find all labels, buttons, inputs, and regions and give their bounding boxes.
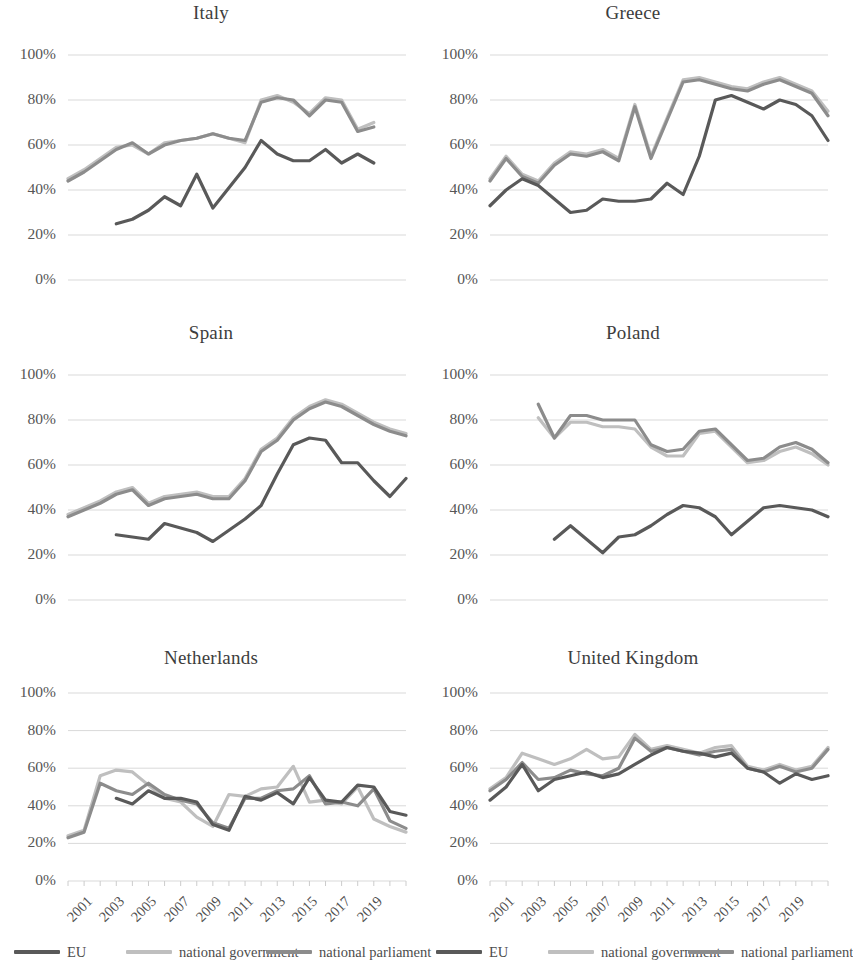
chart-panel-spain: Spain0%20%40%60%80%100%: [0, 320, 422, 642]
series-line-eu: [554, 506, 828, 553]
legend-label: EU: [489, 944, 508, 961]
legend-swatch-icon: [688, 950, 734, 954]
series-line-national-government: [68, 400, 406, 515]
legend-item-eu[interactable]: EU: [14, 941, 86, 963]
legend-label: national parliament: [741, 944, 853, 961]
chart-panel-poland: Poland0%20%40%60%80%100%: [422, 320, 844, 642]
chart-panel-greece: Greece0%20%40%60%80%100%: [422, 0, 844, 322]
legend-swatch-icon: [548, 950, 594, 954]
plot-area: [422, 0, 844, 322]
chart-legend: EUnational governmentnational parliament: [0, 941, 422, 963]
series-line-eu: [490, 748, 828, 801]
plot-area: [0, 320, 422, 642]
series-line-national-government: [538, 418, 828, 465]
series-line-national-government: [68, 766, 406, 836]
x-axis-ticks: [68, 881, 406, 886]
series-line-national-parliament: [68, 98, 374, 181]
plot-area: [0, 0, 422, 322]
series-line-national-parliament: [68, 402, 406, 517]
gridlines: [490, 55, 828, 280]
chart-panel-netherlands: Netherlands0%20%40%60%80%100%20012003200…: [0, 645, 422, 967]
series-line-eu: [116, 141, 374, 224]
legend-label: EU: [67, 944, 86, 961]
legend-swatch-icon: [266, 950, 312, 954]
legend-swatch-icon: [14, 950, 60, 954]
gridlines: [68, 55, 406, 280]
plot-area: [422, 320, 844, 642]
legend-label: national parliament: [319, 944, 431, 961]
legend-item-national-parliament[interactable]: national parliament: [688, 941, 853, 963]
legend-swatch-icon: [126, 950, 172, 954]
series-line-national-government: [490, 78, 828, 182]
series-line-eu: [116, 778, 406, 831]
series-line-eu: [490, 96, 828, 213]
series-line-national-parliament: [68, 776, 406, 838]
gridlines: [490, 693, 828, 881]
legend-swatch-icon: [436, 950, 482, 954]
chart-legend: EUnational governmentnational parliament: [422, 941, 844, 963]
chart-panel-italy: Italy0%20%40%60%80%100%: [0, 0, 422, 322]
chart-panel-united-kingdom: United Kingdom0%20%40%60%80%100%20012003…: [422, 645, 844, 967]
series-line-national-parliament: [490, 80, 828, 184]
x-axis-ticks: [490, 881, 828, 886]
legend-item-eu[interactable]: EU: [436, 941, 508, 963]
legend-item-national-parliament[interactable]: national parliament: [266, 941, 431, 963]
